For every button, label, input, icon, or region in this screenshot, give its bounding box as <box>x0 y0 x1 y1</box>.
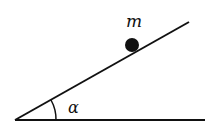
mass-label: m <box>126 11 142 31</box>
angle-label: α <box>68 98 79 117</box>
angle-arc <box>51 100 56 120</box>
incline-line <box>15 22 189 120</box>
incline-diagram: m α <box>0 0 214 131</box>
mass-ball <box>125 38 139 52</box>
